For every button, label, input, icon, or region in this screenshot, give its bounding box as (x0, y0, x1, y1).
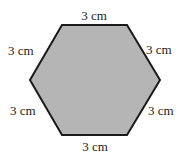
side-label-top: 3 cm (81, 8, 107, 23)
side-label-bottom: 3 cm (82, 139, 108, 154)
hexagon-shape (30, 25, 160, 135)
side-label-upper-right: 3 cm (146, 42, 172, 57)
side-label-lower-right: 3 cm (148, 103, 174, 118)
side-label-upper-left: 3 cm (8, 43, 34, 58)
side-label-lower-left: 3 cm (10, 103, 36, 118)
hexagon-diagram: 3 cm 3 cm 3 cm 3 cm 3 cm 3 cm (0, 0, 186, 159)
